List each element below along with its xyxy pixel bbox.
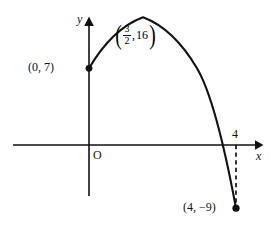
- parabola-curve: [89, 17, 236, 208]
- vertex-label: ( 3 2 , 16 ): [114, 24, 157, 46]
- vertex-open-paren: (: [115, 24, 121, 46]
- point-label-y-intercept: (0, 7): [28, 61, 54, 73]
- point-label-endpoint: (4, −9): [183, 201, 216, 213]
- x-tick-label-4: 4: [232, 128, 238, 140]
- vertex-y-value: 16: [136, 28, 148, 43]
- y-axis-label: y: [77, 13, 82, 25]
- parabola-figure: y x O 4 (0, 7) (4, −9) ( 3 2 , 16 ): [0, 0, 277, 231]
- x-axis-label: x: [256, 150, 261, 162]
- vertex-separator: ,: [132, 28, 135, 43]
- vertex-fraction-denominator: 2: [124, 36, 131, 46]
- point-dot-y-intercept: [86, 65, 93, 72]
- vertex-fraction: 3 2: [123, 24, 131, 46]
- vertex-fraction-numerator: 3: [124, 24, 131, 34]
- origin-label: O: [93, 149, 102, 161]
- y-axis-arrowhead: [84, 17, 94, 27]
- point-dot-endpoint: [232, 205, 239, 212]
- vertex-close-paren: ): [149, 24, 155, 46]
